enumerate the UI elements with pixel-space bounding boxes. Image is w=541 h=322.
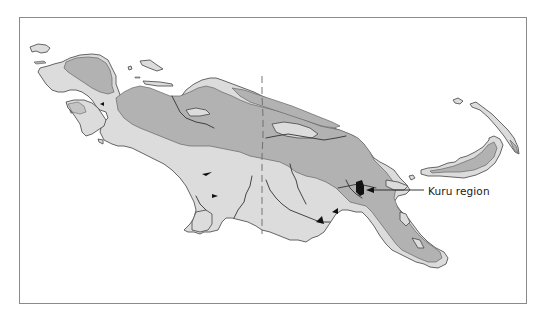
island-seram-tip	[98, 139, 103, 144]
island-yapen	[143, 81, 173, 86]
kuru-region-label: Kuru region	[428, 185, 490, 197]
island-waigeo	[30, 44, 50, 53]
island-numfor	[128, 66, 132, 70]
new-guinea-map	[0, 0, 541, 322]
island-manus-area	[453, 98, 463, 104]
island-umboi	[409, 175, 415, 180]
frederik-hendrik-island	[192, 210, 212, 232]
island-biak	[140, 60, 163, 71]
island-batanta	[34, 61, 46, 64]
island-small-north	[135, 77, 140, 78]
